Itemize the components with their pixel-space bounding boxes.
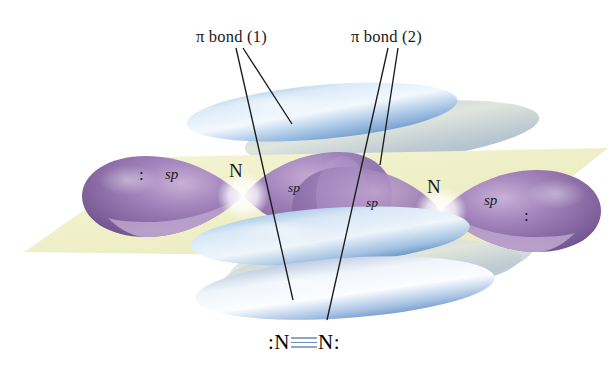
- sp-label-outer-right: sp: [484, 192, 497, 209]
- sp-label-inner-right: sp: [366, 195, 378, 211]
- lewis-lone-pair-right: :: [334, 330, 340, 355]
- nucleus-glow-left: [217, 172, 269, 220]
- sp-label-outer-left: sp: [165, 166, 178, 183]
- lewis-triple-bond-icon: [291, 337, 317, 348]
- lewis-atom-right: N: [318, 330, 334, 355]
- lewis-structure: : N N :: [268, 330, 340, 355]
- atom-label-left-n: N: [229, 160, 243, 182]
- lone-pair-right: :: [524, 207, 529, 224]
- pi-bond-2-label: π bond (2): [351, 27, 422, 47]
- lewis-atom-left: N: [274, 330, 290, 355]
- orbital-diagram-artwork: [0, 0, 611, 365]
- sp-label-inner-left: sp: [288, 180, 300, 196]
- figure-canvas: π bond (1) π bond (2) : sp N sp sp N sp …: [0, 0, 611, 365]
- pi-bond-1-label: π bond (1): [196, 27, 267, 47]
- lone-pair-left: :: [139, 166, 144, 183]
- atom-label-right-n: N: [427, 176, 441, 198]
